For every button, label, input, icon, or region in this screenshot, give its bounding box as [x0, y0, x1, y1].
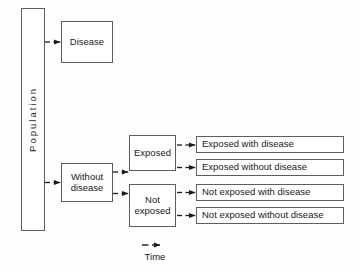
node-without-disease-label: Without disease [71, 172, 104, 194]
node-not-exposed-label: Not exposed [135, 195, 171, 217]
outcome-label: Exposed with disease [202, 139, 294, 150]
node-disease-label: Disease [70, 37, 104, 48]
time-legend: Time [110, 240, 200, 262]
node-outcome-exposed-without-disease[interactable]: Exposed without disease [196, 159, 344, 176]
outcome-label: Not exposed with disease [202, 187, 310, 198]
node-population[interactable]: Population [21, 8, 45, 231]
time-legend-label: Time [110, 251, 200, 262]
node-exposed-label: Exposed [134, 148, 171, 159]
node-outcome-not-exposed-with-disease[interactable]: Not exposed with disease [196, 184, 344, 201]
flow-diagram: Population Disease Without disease Expos… [0, 0, 361, 272]
node-outcome-not-exposed-without-disease[interactable]: Not exposed without disease [196, 207, 344, 224]
outcome-label: Exposed without disease [202, 162, 307, 173]
outcome-label: Not exposed without disease [202, 210, 323, 221]
dashed-right-arrow-icon [140, 240, 170, 250]
node-outcome-exposed-with-disease[interactable]: Exposed with disease [196, 136, 344, 153]
node-without-disease[interactable]: Without disease [61, 163, 113, 202]
node-exposed[interactable]: Exposed [129, 135, 176, 171]
node-disease[interactable]: Disease [61, 21, 113, 63]
node-population-label: Population [28, 87, 39, 152]
node-not-exposed[interactable]: Not exposed [129, 184, 176, 227]
